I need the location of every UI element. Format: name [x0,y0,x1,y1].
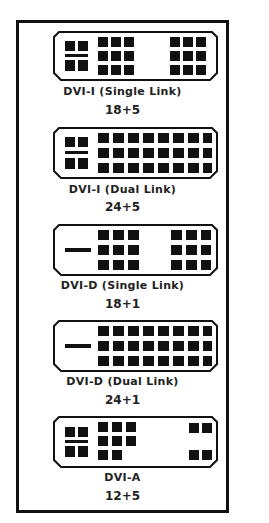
connector-label: DVI-A [19,471,226,484]
pin-count: 18+5 [19,103,226,117]
dvi-d-dual-link-icon [53,320,218,372]
connector-label: DVI-I (Single Link) [19,85,226,98]
dvi-i-dual-link-icon [53,127,218,179]
dvi-d-single-link-icon [53,224,218,276]
dvi-i-single-link-icon [53,31,218,81]
connector-dvi-d-dual-link [53,320,218,370]
pin-count: 18+1 [19,297,226,311]
connector-dvi-i-dual-link [53,127,218,177]
connector-label: DVI-I (Dual Link) [19,183,226,196]
connector-dvi-d-single-link [53,224,218,274]
connector-dvi-i-single-link [53,31,218,81]
connector-dvi-a [53,416,218,466]
pin-count: 24+5 [19,200,226,214]
connector-diagram-frame: DVI-I (Single Link) 18+5 DVI-I (Dual Lin… [16,20,229,513]
connector-label: DVI-D (Single Link) [19,279,226,292]
pin-count: 24+1 [19,393,226,407]
pin-count: 12+5 [19,489,226,503]
dvi-a-icon [53,416,218,468]
connector-label: DVI-D (Dual Link) [19,375,226,388]
